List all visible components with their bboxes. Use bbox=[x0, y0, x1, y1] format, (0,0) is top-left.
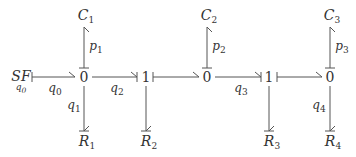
bond-1b-r3 bbox=[264, 86, 274, 131]
bond-label-q4: q4 bbox=[312, 99, 325, 114]
resistor-r1: R1 bbox=[79, 134, 95, 151]
resistor-r2: R2 bbox=[141, 134, 157, 151]
bond-0a-c1 bbox=[79, 27, 89, 68]
bond-1a-r2 bbox=[141, 86, 151, 131]
bond-label-p1: p1 bbox=[89, 40, 102, 55]
bond-label-q1: q1 bbox=[67, 99, 80, 114]
bond-lines bbox=[0, 0, 356, 157]
bond-0b-c2 bbox=[202, 27, 212, 68]
bond-label-q2: q2 bbox=[110, 82, 123, 97]
resistor-r4: R4 bbox=[325, 134, 341, 151]
resistor-r3: R3 bbox=[264, 134, 280, 151]
bond-graph-diagram: SF q0 0 1 0 1 0 C1 C2 C3 R1 R2 R3 R4 q0 … bbox=[0, 0, 356, 157]
capacitor-c3: C3 bbox=[324, 8, 340, 25]
bond-0c-r4 bbox=[325, 86, 335, 131]
junction-1-a: 1 bbox=[142, 70, 151, 84]
junction-0-a: 0 bbox=[80, 70, 89, 84]
source-flow-sublabel: q0 bbox=[16, 83, 27, 94]
junction-0-c: 0 bbox=[326, 70, 335, 84]
capacitor-c2: C2 bbox=[201, 8, 217, 25]
bond-label-q3: q3 bbox=[234, 82, 247, 97]
bond-label-p2: p2 bbox=[212, 40, 225, 55]
junction-1-b: 1 bbox=[265, 70, 274, 84]
bond-1b-0c bbox=[277, 72, 322, 82]
bond-0c-c3 bbox=[325, 27, 335, 68]
capacitor-c1: C1 bbox=[78, 8, 94, 25]
bond-label-q0: q0 bbox=[48, 82, 61, 97]
bond-label-p3: p3 bbox=[335, 40, 348, 55]
bond-1a-0b bbox=[153, 72, 199, 82]
junction-0-b: 0 bbox=[203, 70, 212, 84]
source-flow-label: SF bbox=[11, 69, 30, 83]
